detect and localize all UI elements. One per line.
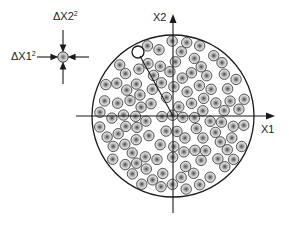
x1-arrow-icon [266,113,275,120]
x2-arrow-icon [170,14,177,23]
inset-x2-exp: 2 [74,10,78,17]
arrow-left-icon [69,55,75,60]
inset-x1-exp: 2 [32,50,36,57]
arrow-up-icon [61,63,66,69]
inset-sphere [58,52,68,62]
highlighted-sphere [132,46,144,58]
diagram-canvas [0,0,289,225]
inset-x2-label: ΔX22 [53,11,78,22]
inset-x1-label: ΔX12 [11,51,36,62]
arrow-right-icon [51,55,57,60]
inset-x2-text: ΔX2 [53,10,74,22]
x2-axis-label: X2 [153,12,166,23]
x1-axis-label: X1 [261,124,274,135]
inset-x1-text: ΔX1 [11,50,32,62]
arrow-down-icon [61,45,66,51]
